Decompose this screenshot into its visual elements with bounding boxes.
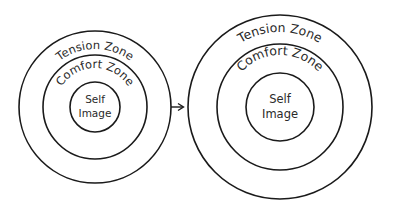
before-diagram: Tension Zone Comfort Zone Self Image <box>19 31 171 183</box>
right-arrow-icon <box>171 104 184 111</box>
self-label: Self <box>85 93 105 105</box>
image-label: Image <box>79 107 112 119</box>
comfort-zone-label: Comfort Zone <box>233 43 327 74</box>
tension-zone-label: Tension Zone <box>234 20 325 46</box>
comfort-zone-label: Comfort Zone <box>53 57 137 88</box>
zones-diagram: Tension Zone Comfort Zone Self Image Ten… <box>0 0 394 216</box>
self-label: Self <box>269 92 292 106</box>
after-diagram: Tension Zone Comfort Zone Self Image <box>188 15 372 199</box>
image-label: Image <box>262 107 298 121</box>
